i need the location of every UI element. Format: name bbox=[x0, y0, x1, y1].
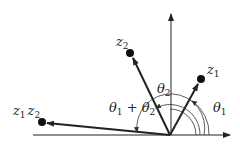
label-theta2: θ2 bbox=[157, 81, 171, 98]
label-theta1: θ1 bbox=[213, 100, 227, 117]
label-theta-sum: θ1 + θ2 bbox=[109, 100, 155, 117]
complex-multiplication-diagram: z1 z2 z1z2 θ1 θ2 θ1 + θ2 bbox=[0, 0, 240, 146]
label-z1: z1 bbox=[206, 62, 220, 79]
vector-z1z2 bbox=[47, 123, 170, 135]
point-z1 bbox=[197, 75, 205, 83]
arc-theta1 bbox=[192, 101, 209, 135]
label-z2: z2 bbox=[115, 34, 129, 51]
label-z1z2: z1z2 bbox=[12, 103, 40, 120]
